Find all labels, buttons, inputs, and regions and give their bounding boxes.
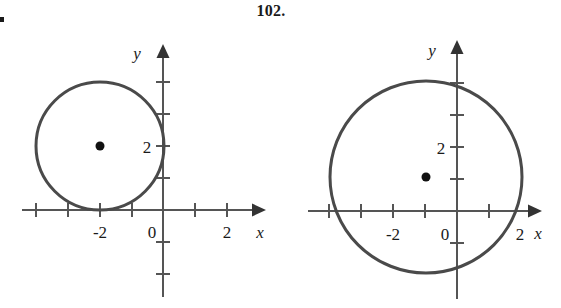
right-tick-label-pos2: 2 (516, 225, 525, 244)
right-x-axis-label: x (533, 224, 542, 243)
left-tick-label-pos2: 2 (223, 223, 232, 242)
right-y-axis-arrow (451, 40, 464, 54)
left-center-point (96, 142, 105, 151)
left-tick-label-neg2: -2 (93, 223, 107, 242)
left-y-axis-label: y (131, 44, 141, 63)
figure-page: 102. (0, 0, 561, 308)
right-graph-figure: y x -2 0 2 2 (280, 0, 561, 308)
left-x-axis-label: x (255, 223, 264, 242)
right-center-point (422, 173, 431, 182)
right-tick-label-y2: 2 (437, 139, 446, 158)
right-x-axis-arrow (528, 205, 542, 218)
left-tick-label-origin: 0 (148, 223, 157, 242)
left-tick-label-y2: 2 (143, 138, 152, 157)
left-x-axis-arrow (252, 204, 266, 217)
right-y-axis-label: y (426, 41, 436, 60)
left-graph-figure: y x -2 0 2 2 (0, 0, 280, 308)
right-tick-label-neg2: -2 (386, 225, 400, 244)
right-tick-label-origin: 0 (441, 225, 450, 244)
right-graph-svg: y x -2 0 2 2 (280, 0, 561, 308)
left-graph-svg: y x -2 0 2 2 (0, 0, 280, 308)
left-y-axis-arrow (157, 44, 170, 58)
